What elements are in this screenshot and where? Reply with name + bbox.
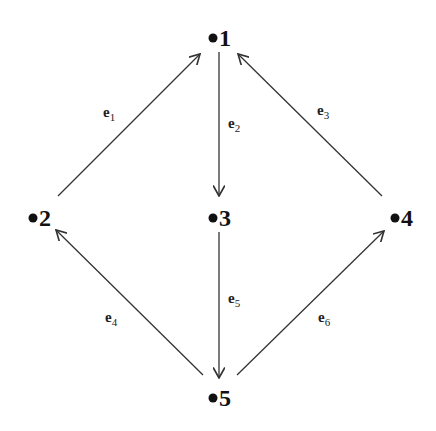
graph-diagram: e1 e2 e3 e4 e5 e6 1 2 3 4 5 [0, 0, 436, 431]
node-dot-icon [209, 214, 218, 223]
edge-e1 [58, 54, 200, 196]
node-4: 4 [391, 205, 414, 231]
node-5: 5 [209, 385, 232, 411]
node-dot-icon [29, 214, 38, 223]
svg-text:3: 3 [219, 205, 231, 231]
node-dot-icon [209, 34, 218, 43]
edge-e6 [237, 231, 384, 375]
edge-label-e3: e3 [317, 102, 330, 121]
edge-label-e1: e1 [103, 104, 115, 123]
svg-text:1: 1 [219, 25, 231, 51]
edge-e4 [56, 230, 203, 375]
node-dot-icon [209, 394, 218, 403]
node-3: 3 [209, 205, 232, 231]
node-1: 1 [209, 25, 232, 51]
node-dot-icon [391, 214, 400, 223]
node-2: 2 [29, 205, 52, 231]
svg-text:4: 4 [401, 205, 413, 231]
svg-text:5: 5 [219, 385, 231, 411]
edge-e3 [238, 54, 382, 196]
edge-label-e5: e5 [228, 290, 241, 309]
edge-label-e4: e4 [105, 309, 118, 328]
svg-text:2: 2 [39, 205, 51, 231]
edge-label-e6: e6 [318, 309, 331, 328]
edge-label-e2: e2 [228, 115, 240, 134]
